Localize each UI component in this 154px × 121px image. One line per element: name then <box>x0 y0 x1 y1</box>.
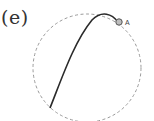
diagram-canvas: A <box>0 0 154 121</box>
point-a-marker <box>116 19 122 25</box>
point-a-label: A <box>125 19 130 26</box>
dashed-circle <box>33 14 141 121</box>
trajectory-curve <box>50 14 118 108</box>
